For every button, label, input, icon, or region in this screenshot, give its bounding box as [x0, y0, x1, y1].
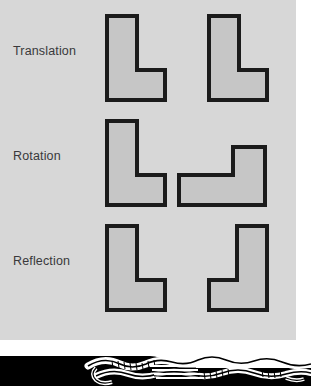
- bottom-artwork-strip: [0, 352, 311, 386]
- reflection-transformed-shape: [206, 223, 270, 313]
- row-label-reflection: Reflection: [13, 254, 70, 268]
- panel-bottom-gap: [0, 340, 311, 352]
- translation-transformed-shape: [206, 13, 270, 103]
- figure-row-reflection: Reflection: [0, 210, 296, 315]
- figure-row-translation: Translation: [0, 0, 296, 105]
- line-art-illustration-icon: [0, 352, 311, 386]
- l-shape-rotated-icon: [176, 144, 268, 208]
- translation-original-shape: [104, 13, 168, 103]
- reflection-original-shape: [104, 223, 168, 313]
- panel-right-margin: [296, 0, 311, 340]
- row-label-rotation: Rotation: [13, 149, 61, 163]
- l-shape-mirrored-icon: [206, 223, 270, 313]
- row-label-translation: Translation: [13, 44, 76, 58]
- rotation-transformed-shape: [176, 144, 268, 208]
- rotation-original-shape: [104, 118, 168, 208]
- l-shape-icon: [104, 118, 168, 208]
- l-shape-icon: [206, 13, 270, 103]
- figure-row-rotation: Rotation: [0, 105, 296, 210]
- l-shape-icon: [104, 223, 168, 313]
- l-shape-icon: [104, 13, 168, 103]
- transformations-figure-panel: Translation Rotation Reflection: [0, 0, 296, 340]
